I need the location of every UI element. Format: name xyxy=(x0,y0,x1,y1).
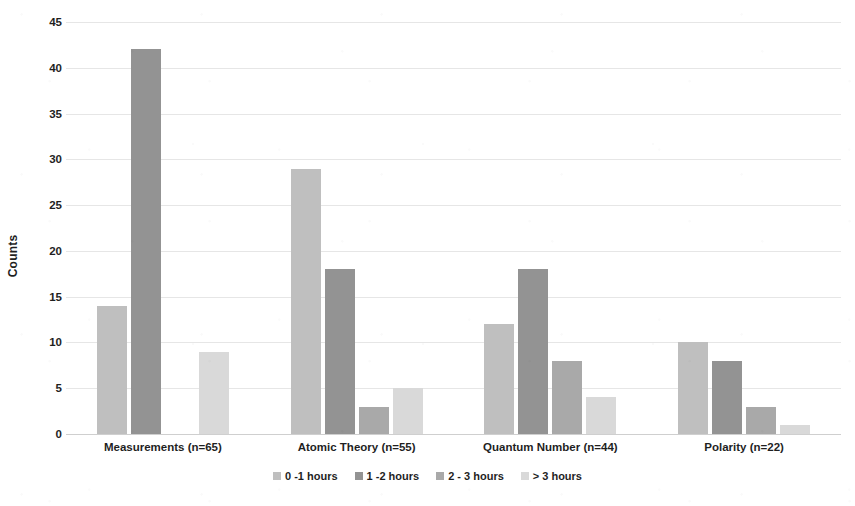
y-axis-tick-label: 0 xyxy=(22,428,62,440)
bar-group xyxy=(678,22,810,434)
bar xyxy=(712,361,742,434)
bar xyxy=(746,407,776,434)
plot-area xyxy=(66,22,841,434)
bar-groups xyxy=(66,22,841,434)
y-axis-tick-label: 30 xyxy=(22,153,62,165)
bar xyxy=(518,269,548,434)
bar xyxy=(552,361,582,434)
x-axis-category-label: Polarity (n=22) xyxy=(647,440,841,454)
bar xyxy=(586,397,616,434)
y-axis-tick-label: 40 xyxy=(22,62,62,74)
bar-group xyxy=(484,22,616,434)
legend-label: > 3 hours xyxy=(533,470,582,482)
bar-group xyxy=(291,22,423,434)
legend-swatch-icon xyxy=(355,472,363,480)
y-axis-tick-label: 45 xyxy=(22,16,62,28)
x-axis-category-labels: Measurements (n=65)Atomic Theory (n=55)Q… xyxy=(66,440,841,460)
legend-item[interactable]: 1 -2 hours xyxy=(355,470,420,482)
bar xyxy=(780,425,810,434)
legend-swatch-icon xyxy=(521,472,529,480)
y-axis-title: Counts xyxy=(6,196,20,316)
legend-label: 0 -1 hours xyxy=(285,470,338,482)
y-axis-tick-label: 15 xyxy=(22,291,62,303)
y-axis-tick-label: 35 xyxy=(22,108,62,120)
bar xyxy=(97,306,127,434)
y-axis-tick-label: 5 xyxy=(22,382,62,394)
bar xyxy=(131,49,161,434)
bar xyxy=(291,169,321,435)
bar xyxy=(678,342,708,434)
legend-swatch-icon xyxy=(436,472,444,480)
bar xyxy=(393,388,423,434)
bar xyxy=(359,407,389,434)
x-axis-category-label: Measurements (n=65) xyxy=(66,440,260,454)
legend-item[interactable]: 0 -1 hours xyxy=(273,470,338,482)
bar xyxy=(325,269,355,434)
x-axis-category-label: Quantum Number (n=44) xyxy=(454,440,648,454)
legend-item[interactable]: 2 - 3 hours xyxy=(436,470,504,482)
bar xyxy=(199,352,229,434)
legend-label: 1 -2 hours xyxy=(367,470,420,482)
legend-item[interactable]: > 3 hours xyxy=(521,470,582,482)
y-axis-tick-labels: 051015202530354045 xyxy=(22,22,62,434)
y-axis-tick-label: 20 xyxy=(22,245,62,257)
bar xyxy=(484,324,514,434)
y-axis-tick-label: 10 xyxy=(22,336,62,348)
legend-label: 2 - 3 hours xyxy=(448,470,504,482)
chart-legend: 0 -1 hours1 -2 hours2 - 3 hours> 3 hours xyxy=(0,470,855,482)
x-axis-category-label: Atomic Theory (n=55) xyxy=(260,440,454,454)
legend-swatch-icon xyxy=(273,472,281,480)
bar-chart: Counts 051015202530354045 Measurements (… xyxy=(0,0,855,506)
bar-group xyxy=(97,22,229,434)
gridline xyxy=(66,434,841,435)
y-axis-tick-label: 25 xyxy=(22,199,62,211)
